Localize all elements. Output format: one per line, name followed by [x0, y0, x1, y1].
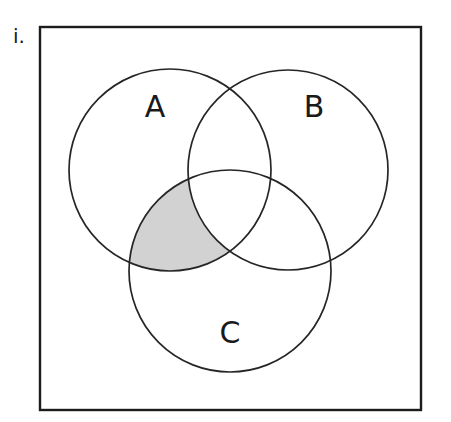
set-label-c: C — [220, 315, 241, 350]
set-label-a: A — [145, 89, 166, 124]
venn-diagram-canvas: A B C i. — [0, 0, 451, 422]
set-label-b: B — [304, 89, 325, 124]
venn-diagram-figure: A B C i. — [0, 0, 451, 422]
figure-item-label: i. — [13, 24, 25, 48]
